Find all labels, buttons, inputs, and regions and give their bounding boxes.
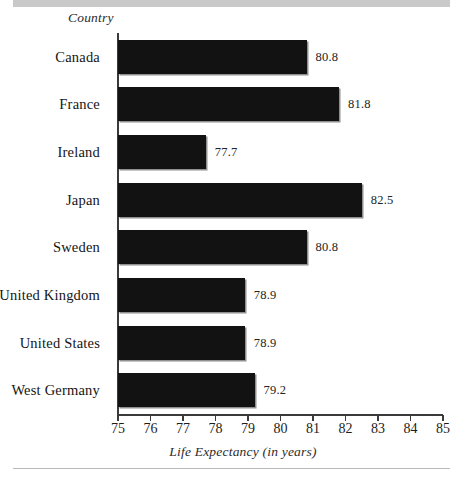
page-bottom-rule bbox=[13, 468, 450, 469]
bar[interactable] bbox=[118, 183, 362, 217]
bar-row: Canada80.8 bbox=[0, 33, 463, 81]
bar-category-label: United Kingdom bbox=[0, 286, 100, 303]
bar-value-label: 79.2 bbox=[264, 383, 287, 398]
x-tick-label: 78 bbox=[209, 421, 223, 437]
x-tick-label: 77 bbox=[176, 421, 190, 437]
bar-row: Ireland77.7 bbox=[0, 128, 463, 176]
x-axis-title-text: Life Expectancy (in years) bbox=[169, 444, 316, 460]
bar-value-label: 78.9 bbox=[254, 335, 277, 350]
bar-category-label: France bbox=[59, 96, 100, 113]
x-tick-label: 79 bbox=[241, 421, 255, 437]
bar-category-label: Japan bbox=[66, 191, 100, 208]
bar-value-label: 80.8 bbox=[316, 240, 339, 255]
bar[interactable] bbox=[118, 40, 307, 74]
x-axis-title: Life Expectancy (in years) bbox=[0, 444, 463, 460]
bar-row: West Germany79.2 bbox=[0, 366, 463, 414]
x-tick-label: 83 bbox=[371, 421, 385, 437]
bar-row: France81.8 bbox=[0, 81, 463, 129]
bar-value-label: 78.9 bbox=[254, 287, 277, 302]
x-tick-label: 75 bbox=[111, 421, 125, 437]
x-tick-label: 84 bbox=[404, 421, 418, 437]
bar-value-label: 80.8 bbox=[316, 49, 339, 64]
bar[interactable] bbox=[118, 373, 255, 407]
bar-category-label: Ireland bbox=[58, 144, 100, 161]
bar-category-label: United States bbox=[20, 334, 100, 351]
bar-row: Japan82.5 bbox=[0, 176, 463, 224]
bar-category-label: West Germany bbox=[11, 382, 100, 399]
x-tick-label: 81 bbox=[306, 421, 320, 437]
bar[interactable] bbox=[118, 135, 206, 169]
bar-category-label: Canada bbox=[55, 48, 100, 65]
bar[interactable] bbox=[118, 278, 245, 312]
bar[interactable] bbox=[118, 326, 245, 360]
bar-value-label: 82.5 bbox=[371, 192, 394, 207]
bar-value-label: 77.7 bbox=[215, 145, 238, 160]
plot-area: Canada80.8France81.8Ireland77.7Japan82.5… bbox=[0, 0, 463, 482]
x-tick-label: 80 bbox=[274, 421, 288, 437]
bar-row: United States78.9 bbox=[0, 319, 463, 367]
x-tick-label: 85 bbox=[436, 421, 450, 437]
bar-row: Sweden80.8 bbox=[0, 224, 463, 272]
bar-chart-figure: Country Canada80.8France81.8Ireland77.7J… bbox=[0, 0, 463, 482]
bar-category-label: Sweden bbox=[53, 239, 100, 256]
x-tick-label: 76 bbox=[144, 421, 158, 437]
bar[interactable] bbox=[118, 230, 307, 264]
bar-value-label: 81.8 bbox=[348, 97, 371, 112]
bar[interactable] bbox=[118, 87, 339, 121]
x-tick-label: 82 bbox=[339, 421, 353, 437]
bar-row: United Kingdom78.9 bbox=[0, 271, 463, 319]
